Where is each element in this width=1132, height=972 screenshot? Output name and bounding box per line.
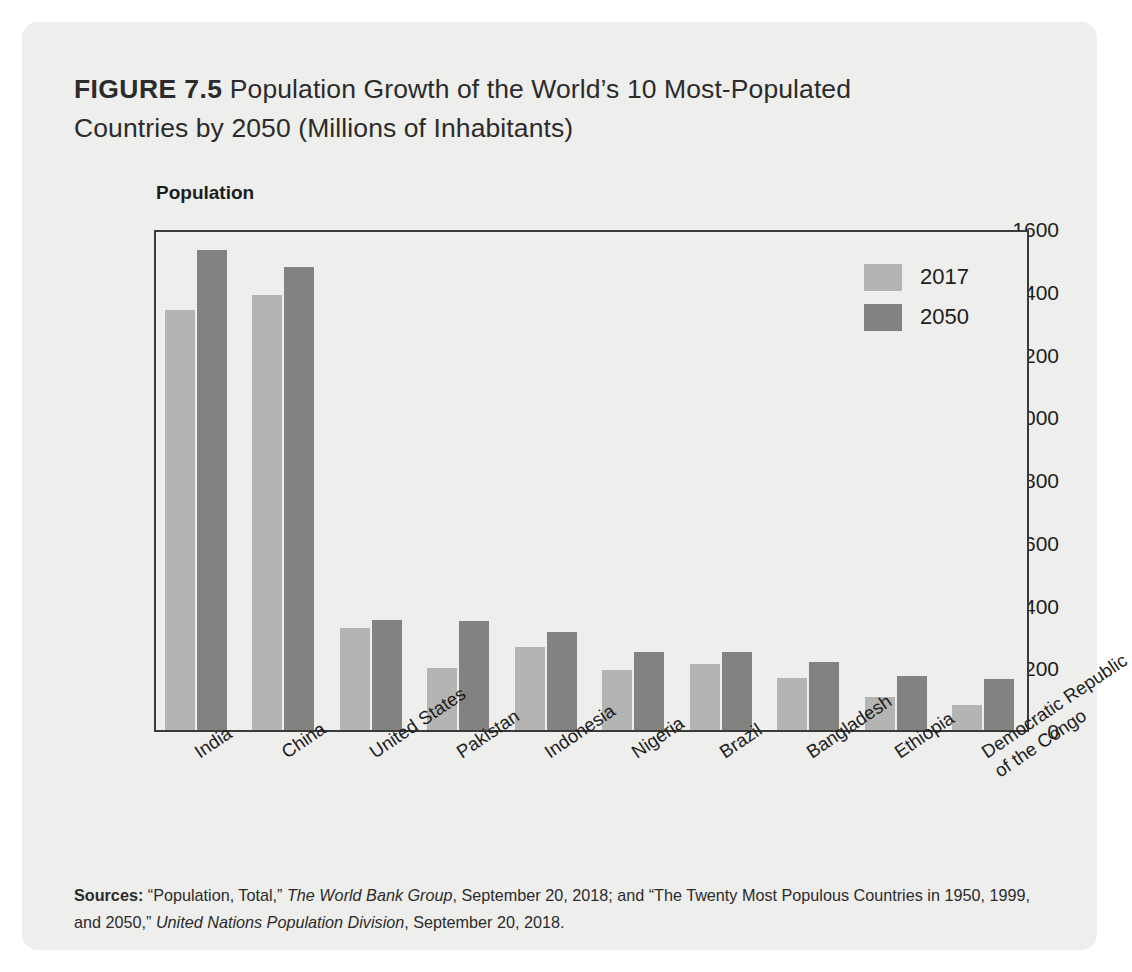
source-part3: , September 20, 2018.	[404, 913, 564, 931]
bar	[690, 664, 720, 730]
chart-legend: 2017 2050	[864, 260, 1014, 340]
legend-swatch-2017	[864, 264, 902, 291]
bar	[252, 295, 282, 730]
bar	[777, 678, 807, 730]
bar-chart: Population 02004006008001000120014001600…	[74, 182, 1059, 882]
bar	[547, 632, 577, 730]
legend-item-2017: 2017	[864, 260, 1014, 294]
figure-title-line1: Population Growth of the World’s 10 Most…	[222, 74, 851, 104]
source-part1: “Population, Total,”	[143, 886, 287, 904]
bar	[809, 662, 839, 730]
source-note: Sources: “Population, Total,” The World …	[74, 882, 1059, 936]
figure-title: FIGURE 7.5 Population Growth of the Worl…	[74, 70, 1034, 148]
bar	[165, 310, 195, 730]
legend-label-2017: 2017	[920, 264, 969, 290]
bar	[722, 652, 752, 730]
bar	[340, 628, 370, 730]
bar	[372, 620, 402, 730]
legend-swatch-2050	[864, 304, 902, 331]
figure-card: FIGURE 7.5 Population Growth of the Worl…	[22, 22, 1097, 950]
legend-label-2050: 2050	[920, 304, 969, 330]
bar	[284, 267, 314, 730]
y-axis-title: Population	[156, 182, 254, 204]
bar	[459, 621, 489, 730]
figure-title-line2: Countries by 2050 (Millions of Inhabitan…	[74, 113, 573, 143]
source-label: Sources:	[74, 886, 143, 904]
source-italic2: United Nations Population Division	[156, 913, 404, 931]
bar	[197, 250, 227, 730]
source-italic1: The World Bank Group	[287, 886, 453, 904]
figure-number: FIGURE 7.5	[74, 74, 222, 104]
legend-item-2050: 2050	[864, 300, 1014, 334]
bar	[634, 652, 664, 730]
